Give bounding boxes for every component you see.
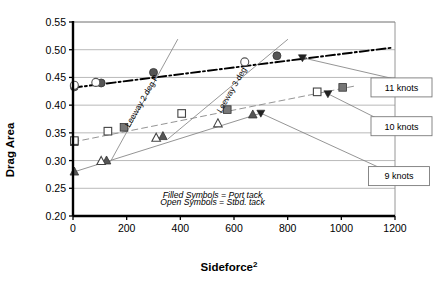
y-tick-label: 0.25 xyxy=(46,182,67,194)
data-point-square-open xyxy=(178,110,186,118)
drag-area-vs-sideforce-chart: 0.200.250.300.350.400.450.500.5502004006… xyxy=(0,0,434,282)
x-tick-label: 800 xyxy=(279,222,297,234)
data-point-square-open xyxy=(104,127,112,135)
x-axis-title: Sideforce2 xyxy=(201,260,258,274)
y-tick-label: 0.40 xyxy=(46,99,67,111)
chart-root: 0.200.250.300.350.400.450.500.5502004006… xyxy=(0,0,434,282)
chart-background xyxy=(0,0,434,282)
y-axis-title: Drag Area xyxy=(4,122,16,177)
callout-10-knots[interactable]: 10 knots xyxy=(371,117,432,136)
x-tick-label: 0 xyxy=(70,222,76,234)
callout-label: 11 knots xyxy=(385,83,419,93)
y-tick-label: 0.50 xyxy=(46,44,67,56)
y-tick-label: 0.30 xyxy=(46,155,67,167)
data-point-square-open xyxy=(71,137,79,145)
svg-text:Sideforce2: Sideforce2 xyxy=(201,260,258,274)
data-point-circle-open xyxy=(92,78,100,86)
annotation-open: Open Symbols = Stbd. tack xyxy=(160,197,265,207)
knot-callout-boxes: 11 knots10 knots9 knots xyxy=(369,78,432,186)
y-tick-label: 0.55 xyxy=(46,16,67,28)
y-tick-label: 0.45 xyxy=(46,71,67,83)
x-tick-label: 200 xyxy=(118,222,136,234)
data-point-square-filled xyxy=(339,84,347,92)
x-tick-label: 1200 xyxy=(383,222,407,234)
y-tick-label: 0.20 xyxy=(46,210,67,222)
callout-9-knots[interactable]: 9 knots xyxy=(369,167,430,186)
y-tick-label: 0.35 xyxy=(46,127,67,139)
x-tick-label: 400 xyxy=(172,222,190,234)
callout-label: 10 knots xyxy=(384,122,419,132)
x-tick-label: 600 xyxy=(225,222,243,234)
callout-11-knots[interactable]: 11 knots xyxy=(371,78,432,97)
data-point-circle-open xyxy=(70,81,78,89)
data-point-square-open xyxy=(313,88,321,96)
x-tick-label: 1000 xyxy=(330,222,354,234)
data-point-circle-open xyxy=(241,58,249,66)
data-point-circle-filled xyxy=(273,52,281,60)
callout-label: 9 knots xyxy=(385,171,415,181)
